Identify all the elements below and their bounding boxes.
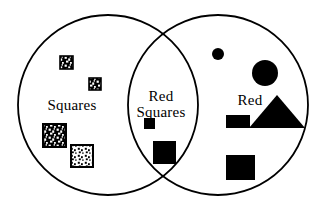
patterned-square-small-2 bbox=[89, 78, 101, 90]
solid-circle-large bbox=[252, 60, 278, 86]
patterned-square-large-2 bbox=[71, 145, 93, 167]
set-label-red-squares: Red Squares bbox=[137, 88, 186, 120]
venn-diagram-canvas: Squares Red Squares Red bbox=[0, 0, 324, 212]
solid-circle-small bbox=[212, 48, 224, 60]
patterned-square-small-1 bbox=[60, 56, 73, 69]
solid-square-large-center bbox=[153, 141, 176, 164]
set-label-red-squares-line2: Squares bbox=[137, 104, 186, 120]
set-label-red: Red bbox=[238, 92, 263, 108]
set-label-red-squares-line1: Red bbox=[137, 88, 186, 104]
solid-rect-large bbox=[226, 155, 255, 180]
patterned-square-large-1 bbox=[43, 124, 66, 147]
solid-rect-small bbox=[226, 115, 250, 128]
set-label-squares: Squares bbox=[48, 97, 97, 113]
